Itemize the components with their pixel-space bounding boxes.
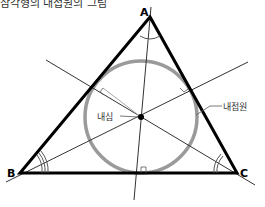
triangle-abc xyxy=(20,17,237,173)
incenter-leader xyxy=(120,116,138,117)
angle-mark-a xyxy=(140,36,160,39)
angle-mark-b xyxy=(37,155,42,173)
bisector-c xyxy=(46,60,255,185)
incenter-point xyxy=(138,114,144,120)
right-angle-right xyxy=(180,88,188,92)
incircle-label: 내접원 xyxy=(223,101,247,112)
vertex-label-a: A xyxy=(140,6,149,19)
incenter-label: 내심 xyxy=(97,112,113,122)
vertex-label-c: C xyxy=(240,167,248,180)
bisector-b xyxy=(6,62,248,182)
vertex-label-b: B xyxy=(7,167,15,180)
incircle-diagram: A B C 내심 내접원 xyxy=(0,0,265,207)
